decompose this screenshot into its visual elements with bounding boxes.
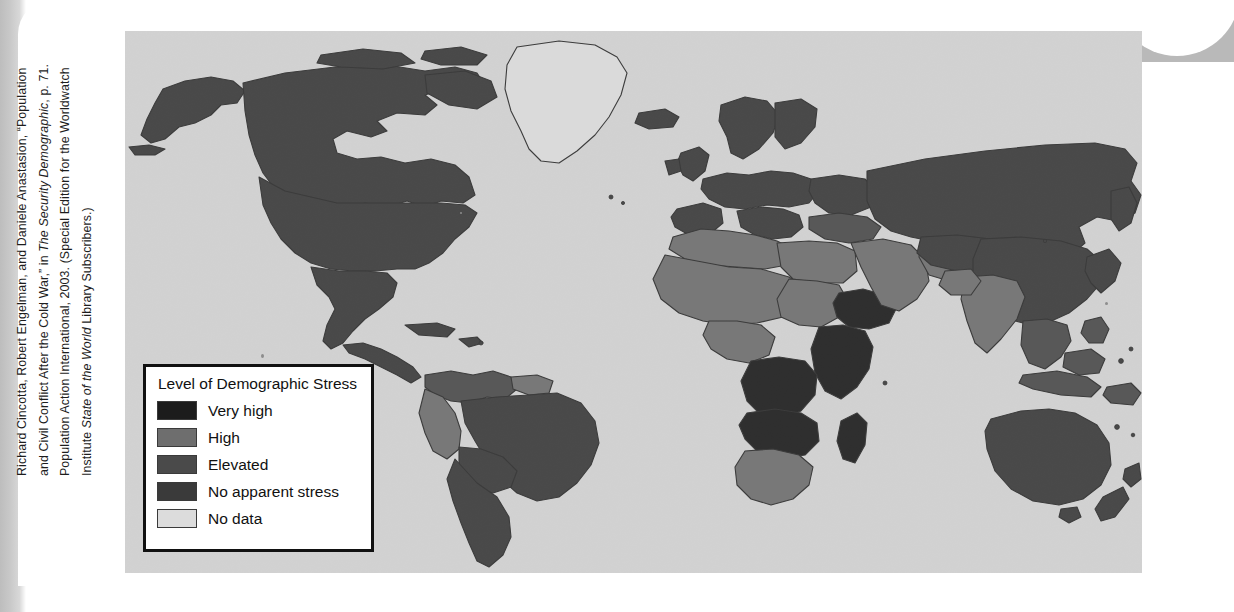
legend-label-elevated: Elevated: [208, 456, 268, 474]
legend-swatch-no-data: [157, 509, 197, 528]
legend-item-no-apparent-stress: No apparent stress: [157, 478, 362, 505]
legend-label-high: High: [208, 429, 240, 447]
scan-speck: [460, 212, 462, 214]
legend-item-elevated: Elevated: [157, 451, 362, 478]
legend-swatch-no-apparent-stress: [157, 482, 197, 501]
caption-line-1: Richard Cincotta, Robert Engelman, and D…: [12, 0, 34, 476]
legend-swatch-very-high: [157, 401, 197, 420]
legend-swatch-high: [157, 428, 197, 447]
legend-title: Level of Demographic Stress: [158, 375, 362, 393]
page-corner-arc: [1138, 0, 1234, 62]
legend-label-no-apparent-stress: No apparent stress: [208, 483, 339, 501]
caption-line-3: Population Action International, 2003. (…: [55, 0, 77, 476]
legend-label-no-data: No data: [208, 510, 262, 528]
caption-line-4: Institute State of the World Library Sub…: [77, 0, 99, 476]
legend-swatch-elevated: [157, 455, 197, 474]
legend-label-very-high: Very high: [208, 402, 273, 420]
map-legend: Level of Demographic Stress Very high Hi…: [143, 364, 374, 552]
legend-item-very-high: Very high: [157, 397, 362, 424]
legend-item-no-data: No data: [157, 505, 362, 532]
scan-speck: [1105, 302, 1108, 305]
caption-line-2: and Civil Conflict After the Cold War,” …: [34, 0, 56, 476]
scan-speck: [261, 354, 264, 358]
legend-item-high: High: [157, 424, 362, 451]
figure-source-caption: Richard Cincotta, Robert Engelman, and D…: [12, 0, 98, 476]
